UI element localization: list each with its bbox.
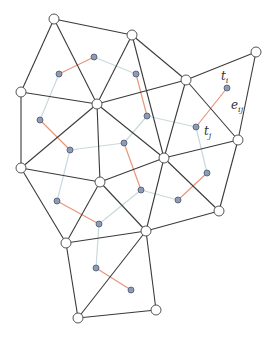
mesh-vertex bbox=[16, 87, 26, 97]
mesh-edge bbox=[146, 211, 219, 231]
dual-edge-kept bbox=[124, 116, 147, 143]
mesh-vertex bbox=[141, 226, 151, 236]
mesh-edge bbox=[97, 104, 100, 182]
mesh-vertex bbox=[251, 47, 261, 57]
dual-node-j bbox=[175, 197, 181, 203]
mesh-vertex bbox=[151, 305, 161, 315]
dual-node-a bbox=[56, 71, 62, 77]
dual-node-k bbox=[54, 198, 60, 204]
dual-node-e bbox=[37, 117, 43, 123]
mesh-edge bbox=[132, 35, 164, 158]
mesh-edge bbox=[78, 231, 146, 318]
label-e-ij-sub: ij bbox=[238, 105, 243, 114]
mesh-edge bbox=[97, 104, 164, 158]
mesh-edge bbox=[164, 158, 219, 211]
dual-node-m bbox=[93, 265, 99, 271]
mesh-vertex bbox=[61, 238, 71, 248]
mesh-edge bbox=[54, 19, 97, 104]
dual-node-n bbox=[128, 287, 134, 293]
dual-node-i bbox=[138, 187, 144, 193]
dual-node-l bbox=[96, 221, 102, 227]
dual-node-f bbox=[67, 147, 73, 153]
dual-node-g bbox=[121, 140, 127, 146]
mesh-edge bbox=[146, 231, 156, 310]
label-e-ij: eij bbox=[231, 99, 243, 114]
mesh-edge bbox=[132, 35, 186, 80]
label-t-i: ti bbox=[221, 70, 228, 85]
mesh-vertex bbox=[214, 206, 224, 216]
label-t-j-sub: j bbox=[209, 131, 211, 140]
mesh-edge bbox=[54, 19, 132, 35]
dual-graph-nodes bbox=[37, 54, 230, 293]
dual-edge-cut bbox=[59, 57, 94, 74]
mesh-edge bbox=[21, 104, 97, 168]
mesh-vertex bbox=[49, 14, 59, 24]
dual-edge-kept bbox=[96, 224, 99, 268]
label-t-i-sub: i bbox=[226, 76, 229, 85]
mesh-edge bbox=[21, 92, 97, 104]
mesh-vertex bbox=[92, 99, 102, 109]
mesh-vertex bbox=[95, 177, 105, 187]
mesh-edge bbox=[66, 243, 78, 318]
mesh-edge bbox=[21, 168, 100, 182]
mesh-edge bbox=[66, 182, 100, 243]
mesh-edge bbox=[21, 19, 54, 92]
dual-edge-kept bbox=[94, 57, 136, 74]
mesh-edge bbox=[238, 52, 256, 140]
dual-edge-cut bbox=[40, 120, 70, 150]
mesh-vertex bbox=[73, 313, 83, 323]
mesh-edge bbox=[97, 80, 186, 104]
dual-node-tj bbox=[193, 124, 199, 130]
mesh-vertex bbox=[159, 153, 169, 163]
mesh-vertex bbox=[127, 30, 137, 40]
mesh-edge bbox=[164, 80, 186, 158]
mesh-vertex bbox=[181, 75, 191, 85]
dual-edge-kept bbox=[141, 190, 178, 200]
dual-node-ti bbox=[224, 85, 230, 91]
mesh-vertex bbox=[16, 163, 26, 173]
dual-edge-cut bbox=[124, 143, 141, 190]
mesh-vertex bbox=[233, 135, 243, 145]
mesh-edge bbox=[66, 231, 146, 243]
dual-edge-kept bbox=[70, 143, 124, 150]
mesh-edges bbox=[21, 19, 256, 318]
dual-node-b bbox=[91, 54, 97, 60]
dual-edge-cut bbox=[96, 268, 131, 290]
mesh-edge bbox=[164, 140, 238, 158]
mesh-edge bbox=[97, 35, 132, 104]
mesh-edge bbox=[146, 158, 164, 231]
mesh-edge bbox=[219, 140, 238, 211]
mesh-edge bbox=[78, 310, 156, 318]
dual-node-d bbox=[144, 113, 150, 119]
dual-node-h bbox=[204, 170, 210, 176]
label-t-j: tj bbox=[204, 125, 211, 140]
mesh-edge bbox=[21, 168, 66, 243]
mesh-diagram: ti eij tj bbox=[0, 0, 273, 339]
dual-node-c bbox=[133, 71, 139, 77]
mesh-edge bbox=[100, 158, 164, 182]
mesh-diagram-svg bbox=[0, 0, 273, 339]
dual-edge-cut bbox=[136, 74, 147, 116]
